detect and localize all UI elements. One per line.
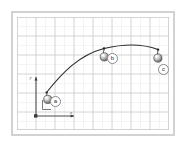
trajectory-curve	[47, 45, 159, 92]
position-label-c: c	[158, 64, 169, 75]
position-label-b: b	[107, 53, 118, 64]
y-axis-label: y	[30, 75, 32, 80]
x-axis-label: x	[70, 110, 72, 115]
position-label-a: a	[50, 96, 61, 107]
graph-paper-plate: a b c y x	[17, 17, 169, 130]
ball-c	[154, 50, 162, 62]
projectile-motion-figure: a b c y x	[0, 0, 191, 154]
artwork-layer	[17, 17, 169, 130]
